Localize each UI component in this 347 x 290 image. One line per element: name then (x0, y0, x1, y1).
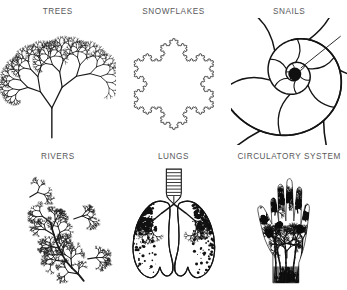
panel-label-snails: SNAILS (231, 7, 347, 17)
fractal-tree-icon (0, 18, 116, 145)
panel-rivers: RIVERS (0, 145, 116, 290)
fractals-figure-sheet: TREES SNOWFLAKES SNAILS RIVERS (0, 0, 347, 290)
lungs-icon (116, 163, 232, 290)
nautilus-spiral-icon (231, 18, 347, 145)
panel-label-snowflakes: SNOWFLAKES (116, 7, 232, 17)
panel-label-trees: TREES (0, 7, 116, 17)
panel-lungs: LUNGS (116, 145, 232, 290)
river-network-icon (0, 163, 116, 290)
koch-snowflake-icon (116, 18, 232, 145)
panel-label-rivers: RIVERS (0, 152, 116, 162)
hand-vasculature-icon (231, 163, 347, 290)
panel-trees: TREES (0, 0, 116, 145)
panel-label-circulatory-system: CIRCULATORY SYSTEM (231, 152, 347, 162)
trachea-shape (166, 169, 181, 204)
panel-snowflakes: SNOWFLAKES (116, 0, 232, 145)
panel-snails: SNAILS (231, 0, 347, 145)
panel-label-lungs: LUNGS (116, 152, 232, 162)
panel-circulatory-system: CIRCULATORY SYSTEM (231, 145, 347, 290)
